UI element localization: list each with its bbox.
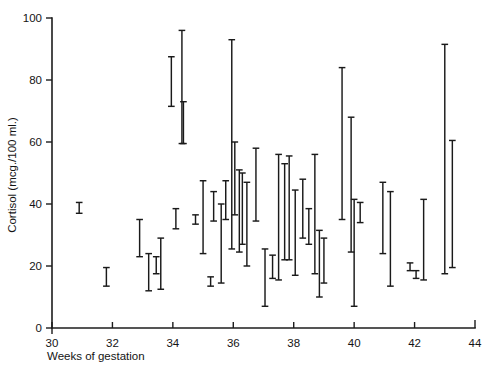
range-bar-marker — [387, 192, 394, 287]
range-bar-marker — [76, 202, 83, 213]
chart-canvas: 020406080100 3032343638404244 Weeks of g… — [0, 0, 495, 376]
x-tick-label: 34 — [166, 337, 179, 349]
range-bar-marker — [192, 215, 199, 224]
range-bar-marker — [420, 199, 427, 280]
range-bar-marker — [292, 190, 299, 275]
range-bar-marker — [262, 249, 269, 306]
range-bar-marker — [449, 140, 456, 267]
cortisol-gestation-range-chart: 020406080100 3032343638404244 Weeks of g… — [0, 0, 495, 376]
range-bar-marker — [269, 255, 276, 278]
x-tick-label: 44 — [469, 337, 482, 349]
y-tick-label: 100 — [23, 12, 42, 24]
axis-titles: Weeks of gestation Cortisol (mcg./100 ml… — [6, 117, 145, 362]
range-bar-marker — [218, 204, 225, 283]
range-bar-marker — [299, 179, 306, 238]
range-bar-marker — [275, 154, 282, 280]
range-bar-marker — [413, 271, 420, 279]
range-bar-marker — [339, 68, 346, 220]
x-axis-title: Weeks of gestation — [47, 350, 145, 362]
data-series-range-bars — [76, 30, 456, 306]
x-tick-label: 30 — [46, 337, 59, 349]
y-tick-label: 80 — [29, 74, 42, 86]
range-bar-marker — [173, 209, 180, 229]
range-bar-marker — [253, 148, 260, 221]
range-bar-marker — [441, 44, 448, 273]
range-bar-marker — [321, 238, 328, 283]
range-bar-marker — [200, 181, 207, 254]
y-axis: 020406080100 — [23, 12, 52, 334]
range-bar-marker — [316, 230, 323, 297]
range-bar-marker — [312, 154, 319, 273]
range-bar-marker — [222, 181, 229, 220]
range-bar-marker — [244, 182, 251, 266]
y-tick-label: 20 — [29, 260, 42, 272]
range-bar-marker — [281, 164, 288, 260]
range-bar-marker — [286, 156, 293, 260]
y-tick-label: 40 — [29, 198, 42, 210]
range-bar-marker — [168, 57, 175, 107]
y-tick-label: 60 — [29, 136, 42, 148]
range-bar-marker — [357, 202, 364, 222]
range-bar-marker — [145, 254, 152, 291]
range-bar-marker — [153, 257, 160, 274]
x-tick-label: 40 — [348, 337, 361, 349]
range-bar-marker — [207, 277, 214, 286]
y-axis-title: Cortisol (mcg./100 ml.) — [6, 117, 18, 233]
range-bar-marker — [380, 182, 387, 253]
range-bar-marker — [180, 102, 187, 144]
range-bar-marker — [179, 30, 186, 143]
x-tick-label: 38 — [287, 337, 300, 349]
range-bar-marker — [136, 220, 143, 257]
range-bar-marker — [157, 238, 164, 289]
x-tick-label: 32 — [106, 337, 119, 349]
range-bar-marker — [305, 209, 312, 245]
range-bar-marker — [103, 268, 110, 287]
x-axis: 3032343638404244 — [46, 320, 482, 349]
x-tick-label: 42 — [408, 337, 421, 349]
range-bar-marker — [210, 192, 217, 221]
range-bar-marker — [407, 263, 414, 271]
y-tick-label: 0 — [36, 322, 42, 334]
x-tick-label: 36 — [227, 337, 240, 349]
